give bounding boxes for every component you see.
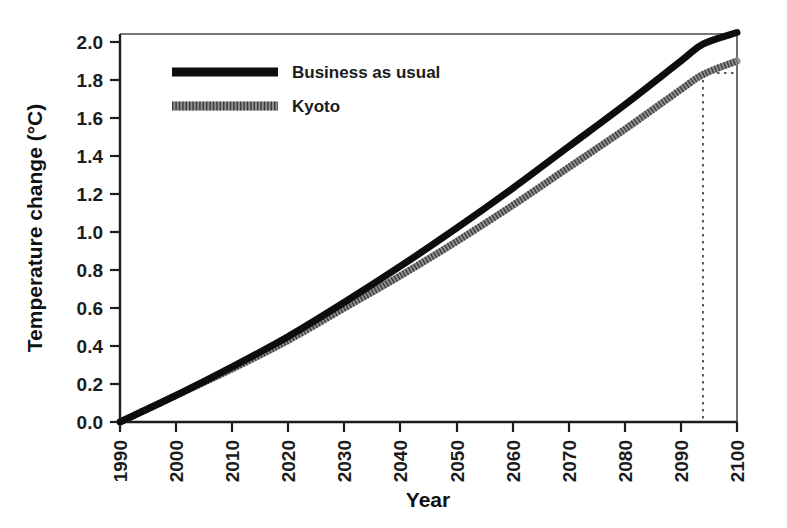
x-tick-label: 2020: [278, 440, 299, 482]
x-tick-label: 2060: [503, 440, 524, 482]
y-axis-title: Temperature change (°C): [23, 104, 46, 352]
y-tick-label: 0.0: [77, 412, 103, 433]
x-tick-label: 2040: [390, 440, 411, 482]
x-axis-title: Year: [406, 488, 450, 511]
x-tick-label: 2070: [559, 440, 580, 482]
y-tick-label: 1.4: [77, 146, 104, 167]
legend-label-kyoto: Kyoto: [292, 97, 340, 116]
chart-figure: 0.0 0.2 0.4 0.6 0.8 1.0 1.2 1.4 1.6 1.8 …: [0, 0, 787, 528]
x-tick-label: 2050: [447, 440, 468, 482]
x-tick-label: 2090: [671, 440, 692, 482]
x-tick-label: 1990: [110, 440, 131, 482]
y-tick-label: 1.2: [77, 184, 103, 205]
x-tick-label: 2010: [222, 440, 243, 482]
y-tick-label: 2.0: [77, 32, 103, 53]
x-tick-label: 2100: [727, 440, 748, 482]
y-tick-label: 1.8: [77, 70, 103, 91]
x-tick-label: 2030: [334, 440, 355, 482]
legend-label-business-as-usual: Business as usual: [292, 63, 440, 82]
y-tick-label: 0.4: [77, 336, 104, 357]
y-tick-label: 0.2: [77, 374, 103, 395]
y-tick-label: 0.6: [77, 298, 103, 319]
y-tick-label: 0.8: [77, 260, 103, 281]
temperature-projection-line-chart: 0.0 0.2 0.4 0.6 0.8 1.0 1.2 1.4 1.6 1.8 …: [0, 0, 787, 528]
y-tick-label: 1.6: [77, 108, 103, 129]
x-tick-label: 2080: [615, 440, 636, 482]
y-tick-label: 1.0: [77, 222, 103, 243]
x-tick-label: 2000: [166, 440, 187, 482]
